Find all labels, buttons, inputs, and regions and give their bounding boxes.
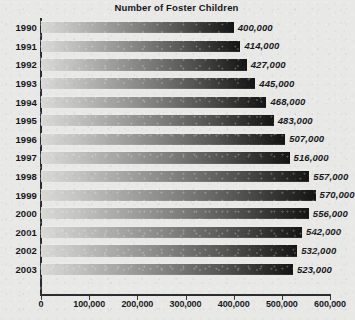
bar: 427,000 [41, 58, 247, 70]
bar: 400,000 [41, 21, 234, 33]
category-label: 2001 [15, 226, 37, 237]
x-tick-label: 500,000 [266, 299, 298, 309]
bar: 556,000 [41, 207, 309, 219]
x-tick-label: 200,000 [121, 299, 153, 309]
bar: 523,000 [41, 263, 293, 275]
bar-row: 1997516,000 [41, 148, 330, 167]
bar-row: 1992427,000 [41, 55, 330, 74]
bar-value-label: 427,000 [251, 59, 286, 70]
bar: 468,000 [41, 96, 266, 108]
x-tick-label: 400,000 [218, 299, 250, 309]
bar-value-label: 445,000 [259, 78, 294, 89]
bar: 507,000 [41, 133, 285, 145]
category-label: 1990 [15, 22, 37, 33]
category-label: 1992 [15, 59, 37, 70]
plot-area: 1990400,0001991414,0001992427,0001993445… [41, 18, 330, 295]
bar: 414,000 [41, 40, 240, 52]
category-label: 1994 [15, 96, 37, 107]
bar: 557,000 [41, 170, 309, 182]
bar: 542,000 [41, 226, 302, 238]
bar-value-label: 557,000 [313, 171, 348, 182]
category-label: 1993 [15, 78, 37, 89]
category-label: 2003 [15, 264, 37, 275]
bar: 532,000 [41, 244, 297, 256]
category-label: 2002 [15, 245, 37, 256]
x-tick-label: 600,000 [314, 299, 346, 309]
bar-row: 1991414,000 [41, 37, 330, 56]
bar-row: 1990400,000 [41, 18, 330, 37]
bar: 516,000 [41, 151, 290, 163]
bar-value-label: 556,000 [313, 208, 348, 219]
x-tick-label: 300,000 [170, 299, 202, 309]
category-label: 1995 [15, 115, 37, 126]
x-tick-label: 100,000 [73, 299, 105, 309]
bar: 483,000 [41, 114, 274, 126]
bar-value-label: 468,000 [270, 97, 305, 108]
bar-row: 2002532,000 [41, 241, 330, 260]
bar-row: 1994468,000 [41, 92, 330, 111]
category-label: 1998 [15, 171, 37, 182]
chart-title: Number of Foster Children [0, 2, 353, 13]
bar: 445,000 [41, 77, 255, 89]
bar-row: 1999570,000 [41, 185, 330, 204]
bar-row: 2000556,000 [41, 204, 330, 223]
category-label: 1996 [15, 133, 37, 144]
bar-value-label: 414,000 [244, 41, 279, 52]
category-label: 1999 [15, 189, 37, 200]
bar-row: 2003523,000 [41, 260, 330, 279]
bar-value-label: 483,000 [278, 115, 313, 126]
bar-value-label: 400,000 [238, 22, 273, 33]
bar-value-label: 570,000 [320, 190, 355, 201]
bar-row: 1998557,000 [41, 167, 330, 186]
bar-row: 1995483,000 [41, 111, 330, 130]
bar-row: 2001542,000 [41, 223, 330, 242]
category-label: 2000 [15, 208, 37, 219]
bar-value-label: 523,000 [297, 264, 332, 275]
category-label: 1991 [15, 40, 37, 51]
bar: 570,000 [41, 189, 316, 201]
bar-row: 1996507,000 [41, 130, 330, 149]
bar-value-label: 532,000 [301, 245, 336, 256]
category-label: 1997 [15, 152, 37, 163]
bar-value-label: 507,000 [289, 134, 324, 145]
bar-value-label: 516,000 [294, 152, 329, 163]
bar-value-label: 542,000 [306, 227, 341, 238]
bar-row: 1993445,000 [41, 74, 330, 93]
x-tick-label: 0 [39, 299, 44, 309]
